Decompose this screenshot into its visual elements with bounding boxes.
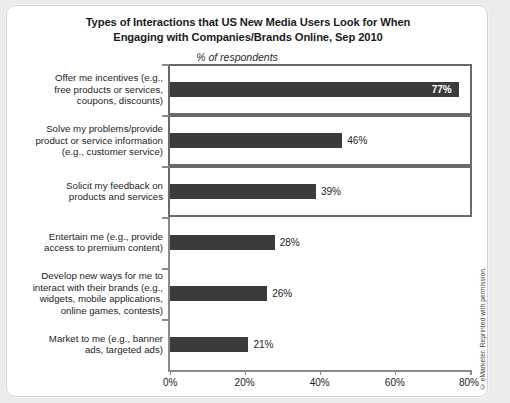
- category-label: Solicit my feedback onproducts and servi…: [15, 180, 163, 203]
- bar: [170, 235, 275, 250]
- x-axis-tick: [395, 370, 397, 375]
- category-label-line: widgets, mobile applications,: [15, 293, 163, 305]
- category-label-line: interact with their brands (e.g.,: [15, 282, 163, 294]
- x-axis-tick-label: 60%: [385, 377, 405, 388]
- bar: [170, 133, 343, 148]
- category-label: Offer me incentives (e.g.,free products …: [15, 72, 163, 107]
- category-label-line: Solicit my feedback on: [15, 180, 163, 192]
- bar-value-label: 39%: [321, 184, 341, 199]
- bar-chart-plot: Offer me incentives (e.g.,free products …: [7, 6, 488, 397]
- copyright-notice: © eMarketer. Reprinted with permission.: [479, 267, 486, 390]
- y-axis-tick: [162, 115, 169, 117]
- y-axis-tick: [162, 166, 169, 168]
- y-axis-tick: [162, 64, 169, 66]
- y-axis-tick: [162, 268, 169, 270]
- category-label-line: ads, targeted ads): [15, 344, 163, 356]
- bar: [170, 184, 316, 199]
- x-axis-tick: [320, 370, 322, 375]
- category-label-line: coupons, discounts): [15, 95, 163, 107]
- y-axis-tick: [162, 217, 169, 219]
- y-axis-tick: [162, 319, 169, 321]
- category-label-line: products and services: [15, 191, 163, 203]
- x-axis-tick: [170, 370, 172, 375]
- x-axis-tick-label: 0%: [163, 377, 177, 388]
- x-axis-tick-label: 20%: [235, 377, 255, 388]
- category-label: Develop new ways for me tointeract with …: [15, 270, 163, 316]
- bar-value-label: 21%: [253, 337, 273, 352]
- x-axis-tick-label: 80%: [459, 377, 479, 388]
- category-label-line: Market to me (e.g., banner: [15, 333, 163, 345]
- x-axis-tick-label: 40%: [310, 377, 330, 388]
- bar: [170, 82, 459, 97]
- category-label-line: free products or services,: [15, 84, 163, 96]
- category-label-line: Solve my problems/provide: [15, 123, 163, 135]
- x-axis-tick: [245, 370, 247, 375]
- bar-value-label: 46%: [347, 133, 367, 148]
- category-label-line: Entertain me (e.g., provide: [15, 231, 163, 243]
- category-label: Market to me (e.g., bannerads, targeted …: [15, 333, 163, 356]
- bar-value-label: 77%: [432, 82, 452, 97]
- bar: [170, 286, 268, 301]
- chart-card: Types of Interactions that US New Media …: [6, 5, 488, 397]
- x-axis-tick: [470, 370, 472, 375]
- category-label-line: online games, contests): [15, 305, 163, 317]
- category-label-line: Offer me incentives (e.g.,: [15, 72, 163, 84]
- bar-value-label: 28%: [280, 235, 300, 250]
- category-label-line: Develop new ways for me to: [15, 270, 163, 282]
- category-label: Solve my problems/provideproduct or serv…: [15, 123, 163, 158]
- category-label-line: (e.g., customer service): [15, 146, 163, 158]
- category-label-line: access to premium content): [15, 242, 163, 254]
- category-label-line: product or service information: [15, 135, 163, 147]
- bar-value-label: 26%: [272, 286, 292, 301]
- category-label: Entertain me (e.g., provideaccess to pre…: [15, 231, 163, 254]
- bar: [170, 337, 249, 352]
